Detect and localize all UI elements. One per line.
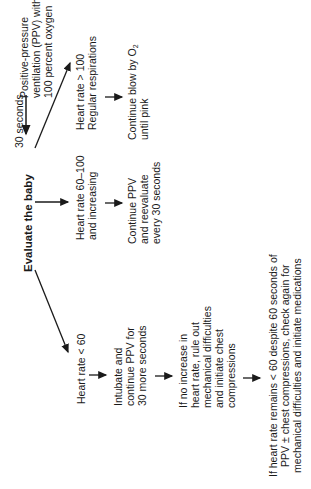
branch-low-step2: If no increase in heart rate, rule out m… — [177, 306, 237, 408]
arrow-to-low — [35, 270, 68, 352]
branch-high-action: Continue blow by O2 until pink — [126, 44, 150, 140]
ppv-node: Positive-pressure ventilation (PPV) with… — [18, 0, 54, 98]
branch-low-step1: Intubate and continue PPV for 30 more se… — [112, 325, 148, 406]
branch-high-condition: Heart rate > 100 Regular respirations — [74, 36, 98, 130]
loop-label: 30 seconds — [13, 94, 25, 148]
branch-mid-condition: Heart rate 60–100 and increasing — [74, 155, 98, 240]
branch-low-step3: If heart rate remains < 60 despite 60 se… — [267, 254, 303, 477]
evaluate-node: Evaluate the baby — [22, 174, 34, 272]
branch-mid-action: Continue PPV and reevaluate every 30 sec… — [126, 162, 162, 244]
branch-low-condition: Heart rate < 60 — [75, 334, 87, 404]
